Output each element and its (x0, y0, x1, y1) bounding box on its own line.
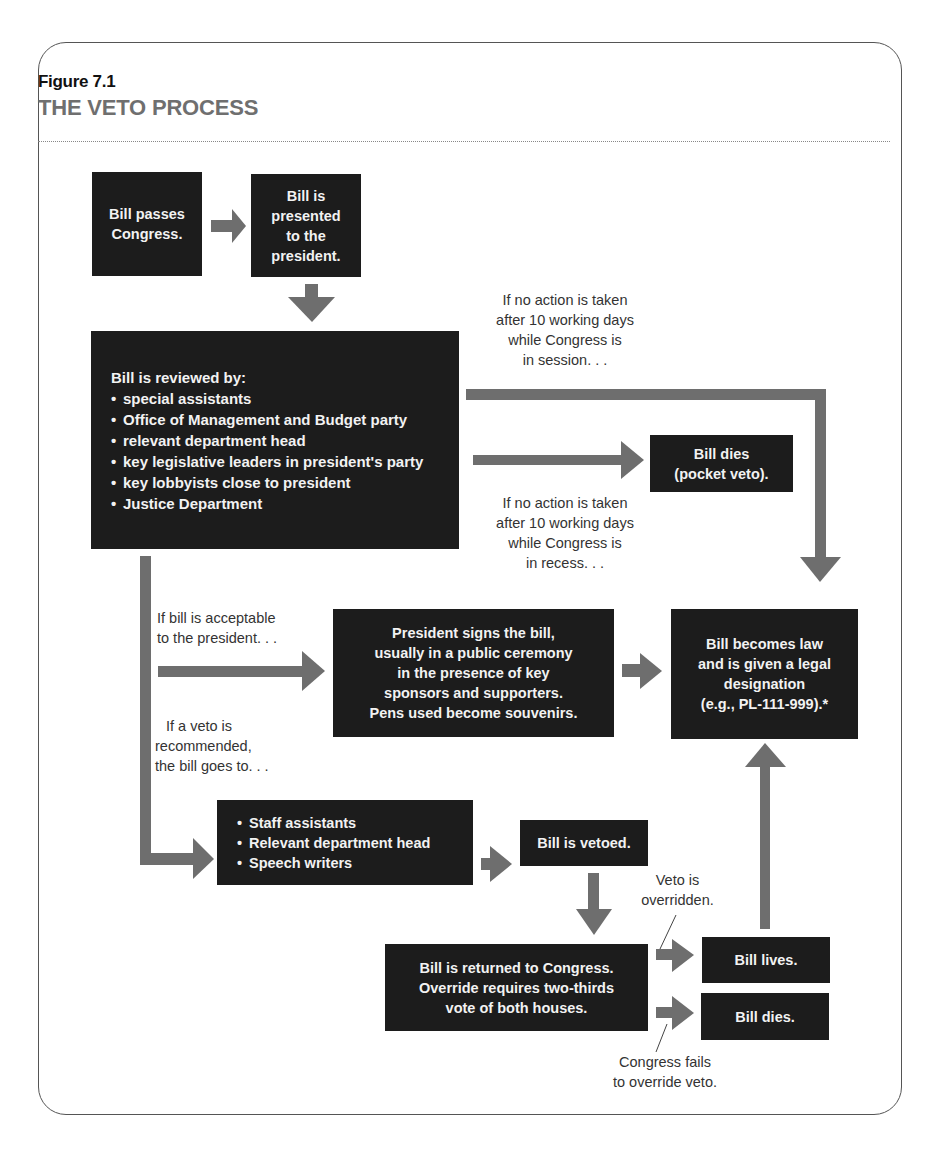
arrow-signs-to-law (622, 653, 662, 689)
note-in-recess: If no action is taken after 10 working d… (470, 493, 660, 573)
leader-fails (656, 1024, 667, 1052)
arrow-lives-to-law (745, 743, 786, 929)
node-text-line: usually in a public ceremony (374, 643, 572, 663)
node-president-signs: President signs the bill, usually in a p… (333, 609, 614, 737)
note-line: If no action is taken (470, 493, 660, 513)
node-bill-lives: Bill lives. (702, 937, 830, 983)
note-line: to the president. . . (157, 628, 327, 648)
note-line: overridden. (620, 890, 735, 910)
reviewer-item: relevant department head (111, 430, 441, 451)
note-line: If bill is acceptable (157, 608, 327, 628)
arrow-vetoed-to-returned (576, 873, 612, 935)
node-text-line: designation (724, 674, 805, 694)
note-line: the bill goes to. . . (155, 756, 325, 776)
reviewer-item: Justice Department (111, 493, 441, 514)
staff-item: Staff assistants (237, 813, 473, 833)
node-text-line: Bill dies (694, 444, 750, 464)
note-line: to override veto. (590, 1072, 740, 1092)
node-text-line: vote of both houses. (446, 998, 588, 1018)
node-text-line: (pocket veto). (674, 464, 768, 484)
note-line: after 10 working days (470, 513, 660, 533)
reviewer-item: special assistants (111, 388, 441, 409)
node-text-line: (e.g., PL-111-999).* (701, 694, 828, 714)
veto-staff-list: Staff assistants Relevant department hea… (237, 813, 473, 873)
arrow-in-recess-to-pocket-veto (473, 441, 644, 479)
reviewer-item: key lobbyists close to president (111, 472, 441, 493)
node-text-line: Bill is (287, 186, 326, 206)
node-text-line: Bill is returned to Congress. (419, 958, 613, 978)
note-in-session: If no action is taken after 10 working d… (470, 290, 660, 370)
node-bill-dies: Bill dies. (701, 993, 829, 1040)
node-text-line: President signs the bill, (392, 623, 555, 643)
reviewer-item: key legislative leaders in president's p… (111, 451, 441, 472)
note-line: Congress fails (590, 1052, 740, 1072)
reviewed-list: special assistants Office of Management … (111, 388, 441, 514)
arrowhead-in-session (800, 557, 841, 582)
node-pocket-veto: Bill dies (pocket veto). (650, 435, 793, 492)
note-veto-recommended: If a veto is recommended, the bill goes … (155, 716, 325, 776)
node-text-line: Override requires two-thirds (419, 978, 614, 998)
note-line: in recess. . . (470, 553, 660, 573)
note-overridden: Veto is overridden. (620, 870, 735, 910)
node-veto-staff: Staff assistants Relevant department hea… (217, 800, 473, 885)
node-text-line: Bill dies. (735, 1007, 795, 1027)
node-bill-reviewed: Bill is reviewed by: special assistants … (91, 331, 459, 549)
node-text-line: sponsors and supporters. (384, 683, 563, 703)
note-line: while Congress is (470, 330, 660, 350)
node-text-line: in the presence of key (397, 663, 549, 683)
node-text-line: president. (271, 246, 340, 266)
node-bill-presented: Bill is presented to the president. (251, 174, 361, 277)
note-acceptable: If bill is acceptable to the president. … (157, 608, 327, 648)
arrow-presented-to-reviewed (288, 284, 335, 322)
arrow-passes-to-presented (211, 209, 246, 243)
node-text-line: Pens used become souvenirs. (370, 703, 578, 723)
note-line: Veto is (620, 870, 735, 890)
node-text-line: and is given a legal (698, 654, 831, 674)
arrow-staff-to-vetoed (481, 846, 512, 882)
staff-item: Relevant department head (237, 833, 473, 853)
note-fails: Congress fails to override veto. (590, 1052, 740, 1092)
arrow-returned-to-dies (656, 996, 694, 1030)
node-text-line: Bill is vetoed. (537, 833, 630, 853)
note-line: while Congress is (470, 533, 660, 553)
node-bill-becomes-law: Bill becomes law and is given a legal de… (671, 609, 858, 739)
note-line: after 10 working days (470, 310, 660, 330)
arrow-returned-to-lives (656, 939, 694, 972)
note-line: in session. . . (470, 350, 660, 370)
reviewer-item: Office of Management and Budget party (111, 409, 441, 430)
node-text-line: Bill passes (109, 204, 185, 224)
arrow-acceptable-to-signs (158, 651, 325, 691)
node-text-line: Bill lives. (735, 950, 798, 970)
node-bill-passes-congress: Bill passes Congress. (92, 172, 202, 276)
node-text-line: Congress. (112, 224, 183, 244)
note-line: recommended, (155, 736, 325, 756)
staff-item: Speech writers (237, 853, 473, 873)
node-text-line: to the (286, 226, 325, 246)
reviewed-heading: Bill is reviewed by: (111, 367, 441, 388)
node-text-line: presented (271, 206, 340, 226)
node-bill-vetoed: Bill is vetoed. (520, 820, 648, 866)
node-bill-returned: Bill is returned to Congress. Override r… (385, 944, 648, 1031)
note-line: If a veto is (155, 716, 325, 736)
node-text-line: Bill becomes law (706, 634, 823, 654)
note-line: If no action is taken (470, 290, 660, 310)
